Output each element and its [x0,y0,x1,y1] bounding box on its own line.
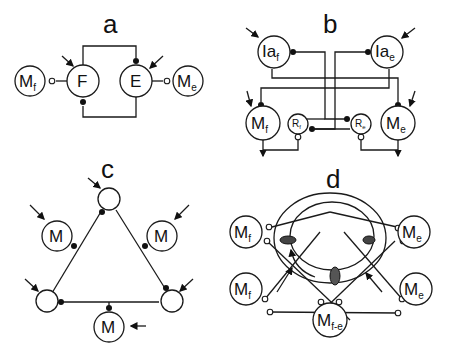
synapse-icon [142,243,148,249]
node-me-bottom: Me [400,273,432,305]
svg-text:M: M [101,318,115,337]
input-arrow-icon [25,279,38,291]
inhibitory-synapse-icon [80,99,86,105]
node-top [98,188,120,210]
panel-a: a Mf F E Me [15,9,203,117]
input-arrow-icon [402,28,415,38]
input-arrow-icon [88,178,100,188]
svg-text:F: F [77,72,87,91]
node-mf: Mf [246,106,280,140]
svg-text:M: M [154,227,168,246]
synapse-icon [58,299,64,305]
node-me-top: Me [398,216,430,248]
node-m-right: M [147,221,177,251]
node-mf-bottom: Mf [230,273,262,305]
input-arrow-icon [62,56,73,66]
connection-f-to-e [83,46,136,65]
panel-b: b Iaf [246,9,415,156]
node-me: Me [381,106,415,140]
synapse-icon [395,310,401,316]
svg-text:E: E [130,72,141,91]
node-bottom-right [161,290,183,312]
node-m-bottom: M [94,312,124,342]
inhibitory-synapse-icon [133,58,139,64]
excitatory-synapse-icon [49,78,55,84]
connection-e-to-f [83,97,136,117]
excitatory-synapse-icon [164,78,170,84]
node-mf: Mf [15,66,45,96]
panel-a-label: a [103,9,118,39]
node-re: Re [351,114,371,134]
panel-b-label: b [323,9,337,39]
connection-mf-to-rf [263,139,298,150]
synapse-icon [262,296,268,302]
neural-circuit-diagram: a Mf F E Me b [0,0,450,354]
input-arrow-icon [175,205,189,219]
synapse-icon [344,116,350,122]
synapse-icon [99,209,105,215]
oscillator-node-icon [363,236,375,244]
node-iae: Iae [371,36,403,68]
synapse-icon [365,49,371,55]
synapse-icon [266,224,272,230]
synapse-icon [290,49,296,55]
node-me: Me [173,66,203,96]
synapse-icon [267,309,273,315]
node-mfe: Mf-e [313,303,347,337]
input-arrow-icon [180,279,193,291]
node-rf: Rf [288,114,308,134]
node-bottom-left [36,290,58,312]
excitatory-synapse-icon [358,134,364,140]
oscillator-node-icon [330,267,340,285]
input-arrow-icon [246,28,258,37]
node-mf-top: Mf [230,216,262,248]
panel-d-label: d [326,164,340,194]
oscillator-node-icon [280,236,296,244]
input-arrow-icon [30,205,44,219]
panel-c: c M M M [25,154,193,342]
node-f: F [67,65,99,97]
excitatory-synapse-icon [295,134,301,140]
svg-text:M: M [49,227,63,246]
synapse-icon [71,243,77,249]
node-iaf: Iaf [258,36,290,68]
node-m-left: M [42,221,72,251]
connection-iaf-to-re [294,52,347,119]
input-arrow-icon [247,91,251,106]
input-arrow-icon [150,56,163,68]
panel-d: d Mf [230,164,432,337]
input-arrow-icon [277,268,292,292]
input-arrow-icon [410,91,415,106]
synapse-icon [264,238,270,244]
connection-me-to-re [361,139,398,150]
node-e: E [120,65,152,97]
input-arrow-icon [366,273,382,292]
panel-c-label: c [101,154,114,184]
